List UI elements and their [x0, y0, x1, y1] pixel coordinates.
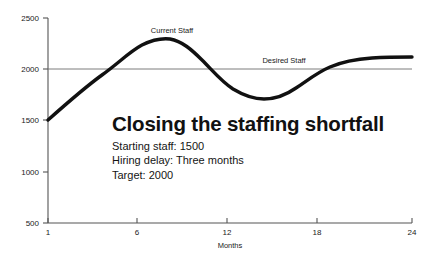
y-tick-label-1000: 1000 [21, 168, 39, 177]
x-tick-label-12: 12 [223, 228, 232, 237]
current-staff-annotation: Current Staff [151, 26, 194, 35]
caption-line-starting-staff: Starting staff: 1500 [112, 139, 412, 154]
desired-staff-annotation: Desired Staff [262, 56, 306, 65]
x-tick-label-6: 6 [135, 228, 140, 237]
current-staff-curve [48, 39, 412, 120]
x-axis-title: Months [218, 241, 243, 250]
caption-detail-list: Starting staff: 1500 Hiring delay: Three… [112, 139, 412, 183]
y-tick-label-2000: 2000 [21, 65, 39, 74]
x-tick-label-24: 24 [408, 228, 417, 237]
caption-line-target: Target: 2000 [112, 168, 412, 183]
x-tick-label-18: 18 [313, 228, 322, 237]
y-tick-label-500: 500 [26, 219, 40, 228]
staffing-shortfall-chart: 2500 2000 1500 1000 500 1 6 12 18 24 Mon… [0, 0, 426, 262]
y-tick-label-1500: 1500 [21, 116, 39, 125]
caption-block: Closing the staffing shortfall Starting … [112, 113, 412, 182]
x-tick-label-1: 1 [46, 228, 51, 237]
caption-line-hiring-delay: Hiring delay: Three months [112, 153, 412, 168]
y-tick-label-2500: 2500 [21, 14, 39, 23]
chart-title: Closing the staffing shortfall [112, 113, 412, 135]
